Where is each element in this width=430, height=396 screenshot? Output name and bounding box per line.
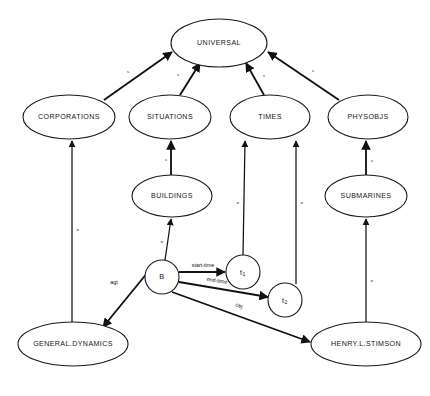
node-henrystimson[interactable]: HENRY.L.STIMSON <box>311 322 421 366</box>
node-submarines[interactable]: SUBMARINES <box>325 175 407 217</box>
edge-label-times-universal: s <box>263 73 265 78</box>
node-label-b: B <box>159 272 164 281</box>
edge-times-universal <box>246 63 264 95</box>
edge-label-b-generaldyn: agt <box>110 279 118 285</box>
edge-label-henrystimson-submarines: e <box>371 278 374 283</box>
edges-layer <box>72 52 366 342</box>
edge-label-b-t1: start-time <box>192 262 214 268</box>
edge-label-generaldyn-corporations: e <box>77 227 80 232</box>
node-label-situations: SITUATIONS <box>147 113 193 121</box>
node-buildings[interactable]: BUILDINGS <box>132 175 212 217</box>
edge-situations-universal <box>180 63 200 95</box>
edge-label-physobjs-universal: s <box>312 68 314 73</box>
node-t1[interactable]: t1 <box>226 255 260 289</box>
semantic-network-diagram: sssssseeeeestart-timeend-timeobjagt UNIV… <box>0 0 430 396</box>
edge-label-t1-times: e <box>237 200 240 205</box>
diagram-canvas: sssssseeeeestart-timeend-timeobjagt UNIV… <box>0 0 430 396</box>
node-generaldyn[interactable]: GENERAL.DYNAMICS <box>18 322 128 366</box>
edge-label-situations-universal: s <box>177 72 179 77</box>
edge-b-buildings <box>165 219 171 260</box>
edge-label-submarines-physobjs: s <box>371 158 373 163</box>
node-corporations[interactable]: CORPORATIONS <box>23 95 115 139</box>
node-times[interactable]: TIMES <box>230 95 310 139</box>
node-label-corporations: CORPORATIONS <box>38 113 100 121</box>
node-label-henrystimson: HENRY.L.STIMSON <box>331 340 401 348</box>
node-physobjs[interactable]: PHYSOBJS <box>328 95 408 139</box>
edge-label-b-henrystimson: obj <box>235 301 244 309</box>
node-t2[interactable]: t2 <box>268 283 302 317</box>
node-situations[interactable]: SITUATIONS <box>129 95 211 139</box>
node-universal[interactable]: UNIVERSAL <box>171 19 267 67</box>
edge-t1-times <box>243 141 245 255</box>
edge-corporations-universal <box>104 52 172 100</box>
edge-label-b-buildings: e <box>161 239 164 244</box>
edge-label-corporations-universal: s <box>127 69 129 74</box>
edge-label-t2-times: e <box>301 200 304 205</box>
node-label-sub-t1: 1 <box>243 271 246 277</box>
edge-label-b-t2: end-time <box>206 276 228 285</box>
node-label-submarines: SUBMARINES <box>341 192 392 200</box>
node-label-physobjs: PHYSOBJS <box>347 113 388 121</box>
edge-physobjs-universal <box>268 52 339 100</box>
node-label-times: TIMES <box>258 113 282 121</box>
node-label-sub-t2: 2 <box>285 299 288 305</box>
edge-label-buildings-situations: s <box>165 157 167 162</box>
node-b[interactable]: B <box>145 260 179 294</box>
node-label-universal: UNIVERSAL <box>197 39 241 47</box>
node-label-buildings: BUILDINGS <box>151 192 193 200</box>
node-label-generaldyn: GENERAL.DYNAMICS <box>33 340 113 348</box>
nodes-layer: UNIVERSALCORPORATIONSSITUATIONSTIMESPHYS… <box>18 19 421 366</box>
